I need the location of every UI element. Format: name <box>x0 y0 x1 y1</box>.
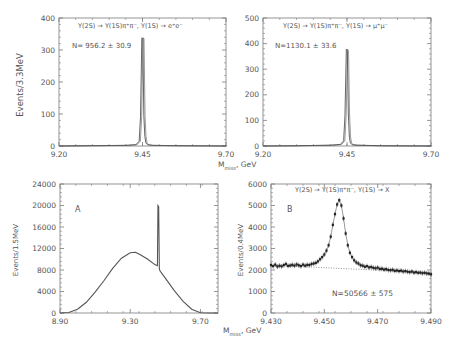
top-left-xtick-label: 9.70 <box>218 150 235 159</box>
top-right-annotation: N=1130.1 ± 33.6 <box>275 42 337 50</box>
bottom-right-ytick-label: 6000 <box>248 180 267 189</box>
bottom-right-xtick-label: 9.450 <box>314 317 336 326</box>
top-left-xtick-label: 9.45 <box>134 150 151 159</box>
bottom-left-annotation: A <box>75 205 80 214</box>
bottom-left-ytick-label: 8000 <box>37 266 56 275</box>
top-right-ytick-label: 400 <box>245 39 260 48</box>
bottom-right-ytick-label: 4000 <box>248 223 267 232</box>
bottom-left-xtick-label: 9.70 <box>192 317 209 326</box>
top-left-title: Υ(2S) → Υ(1S)π⁺π⁻, Υ(1S) → e⁺e⁻ <box>78 22 183 30</box>
top-left-ytick-label: 100 <box>41 110 56 119</box>
bottom-right-title: Υ(2S) → Υ(1S)π⁺π⁻, Υ(1S) → X <box>295 186 389 194</box>
top-right-ytick-label: 200 <box>245 90 260 99</box>
bottom-right-ylabel: Events/0.4MeV <box>237 224 245 276</box>
bottom-left-xtick-label: 8.90 <box>52 317 69 326</box>
panel-top-right: 01002003004005009.209.459.70 <box>245 14 440 160</box>
top-right-ytick-label: 300 <box>245 65 260 74</box>
bottom-right-ytick-label: 1000 <box>248 287 267 296</box>
top-left-annotation: N= 956.2 ± 30.9 <box>72 42 131 50</box>
top-right-xtick-label: 9.20 <box>255 150 272 159</box>
top-right-xtick-label: 9.70 <box>423 150 440 159</box>
bottom-left-ytick-label: 4000 <box>37 287 56 296</box>
top-left-xtick-label: 9.20 <box>51 150 68 159</box>
bottom-left-curve <box>60 206 218 314</box>
bottom-left-ytick-label: 20000 <box>32 201 56 210</box>
top-left-ytick-label: 400 <box>41 14 56 23</box>
top-left-ytick-label: 300 <box>41 46 56 55</box>
bottom-right-xtick-label: 9.490 <box>420 317 442 326</box>
bottom-left-xtick-label: 9.30 <box>122 317 139 326</box>
figure: 01002003004009.209.459.70 01002003004005… <box>0 0 453 349</box>
top-right-xtick-label: 9.45 <box>339 150 356 159</box>
bottom-right-annotation: B <box>287 205 293 214</box>
panel-top-left: 01002003004009.209.459.70 <box>41 14 235 160</box>
bottom-right-ytick-label: 3000 <box>248 244 267 253</box>
top-right-title: Υ(2S) → Υ(1S)π⁺π⁻, Υ(1S) → μ⁺μ⁻ <box>283 22 388 30</box>
top-left-ytick-label: 200 <box>41 78 56 87</box>
top-shared-xlabel: Mmiss, GeV <box>218 160 256 171</box>
top-left-ylabel: Events/3.3MeV <box>15 53 25 117</box>
bottom-left-ytick-label: 24000 <box>32 180 56 189</box>
bottom-right-ytick-label: 5000 <box>248 201 267 210</box>
bottom-right-xtick-label: 9.470 <box>367 317 389 326</box>
bottom-left-ytick-label: 16000 <box>32 223 56 232</box>
bottom-right-yield: N=50566 ± 575 <box>332 289 393 298</box>
top-right-ytick-label: 100 <box>245 116 260 125</box>
bottom-shared-xlabel: Mmiss, GeV <box>223 326 261 337</box>
bottom-left-frame <box>60 184 218 313</box>
bottom-right-xtick-label: 9.430 <box>260 317 282 326</box>
panel-bottom-left: 040008000120001600020000240008.909.309.7… <box>32 180 218 327</box>
top-right-ytick-label: 500 <box>245 14 260 23</box>
bottom-left-ylabel: Events/1.5MeV <box>12 224 20 276</box>
bottom-left-ytick-label: 12000 <box>32 244 56 253</box>
bottom-right-ytick-label: 2000 <box>248 266 267 275</box>
panel-bottom-right: 01000200030004000500060009.4309.4509.470… <box>248 180 442 327</box>
